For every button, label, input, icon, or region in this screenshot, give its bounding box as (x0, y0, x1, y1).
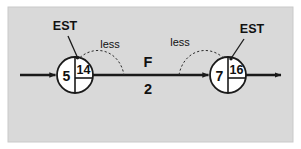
node-right-value: 7 (216, 68, 224, 84)
node-right[interactable]: 7 16 (210, 57, 246, 93)
activity-duration-label: 2 (144, 81, 152, 97)
node-right-secondary-value: 16 (230, 63, 244, 77)
activity-name-label: F (144, 54, 153, 70)
arc-right-label: less (170, 36, 190, 48)
est-right-label: EST (240, 22, 265, 36)
est-left-leader-dot (76, 56, 79, 59)
arc-left-label: less (100, 38, 120, 50)
network-diagram-figure: 5 14 7 16 less less F 2 EST EST (0, 0, 301, 149)
est-left-label: EST (53, 19, 78, 33)
node-left-secondary-value: 14 (77, 63, 91, 77)
est-right-leader-dot (229, 57, 232, 60)
node-left[interactable]: 5 14 (57, 57, 93, 93)
diagram-canvas: 5 14 7 16 less less F 2 EST EST (0, 0, 301, 149)
node-left-value: 5 (63, 68, 71, 84)
